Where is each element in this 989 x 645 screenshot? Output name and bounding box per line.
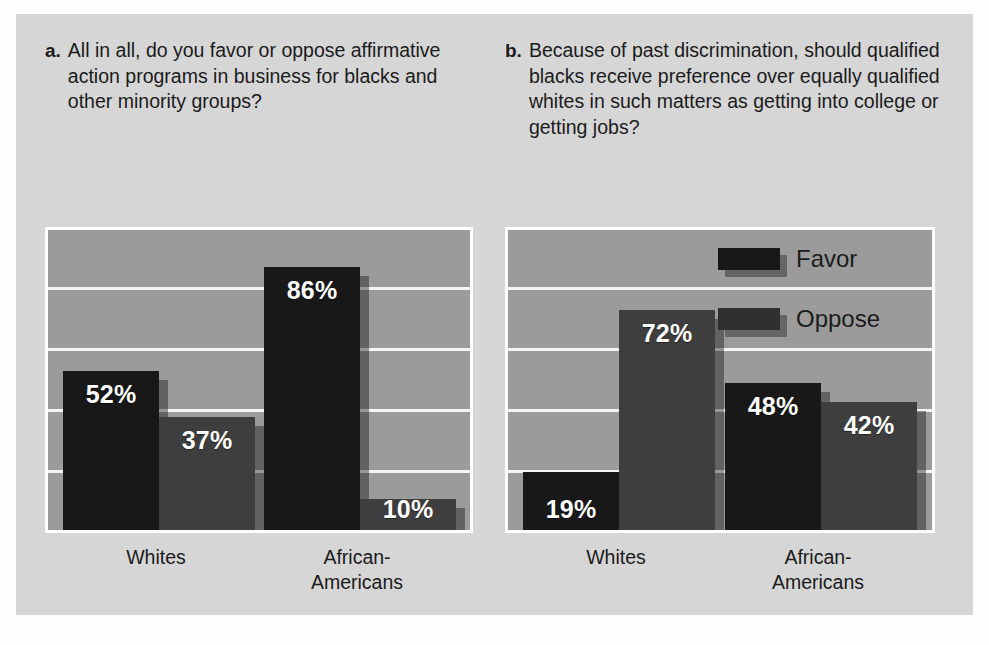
bar-value-label: 42% — [821, 411, 917, 440]
panel-a-question-text: All in all, do you favor or oppose affir… — [68, 38, 450, 115]
category-line: African- — [261, 545, 453, 570]
panel-b-letter: b. — [505, 38, 522, 64]
bar-whites-favor[interactable]: 19% — [523, 472, 619, 530]
bar-african-americans-favor[interactable]: 86% — [264, 267, 360, 530]
panel-a-bars: 52% 37% 86 — [48, 230, 470, 530]
bar-fill — [264, 267, 360, 530]
bar-african-americans-favor[interactable]: 48% — [725, 383, 821, 530]
legend-label-oppose: Oppose — [796, 307, 880, 331]
bar-whites-oppose[interactable]: 37% — [159, 417, 255, 530]
bar-value-label: 52% — [63, 380, 159, 409]
bar-african-americans-oppose[interactable]: 10% — [360, 499, 456, 530]
category-line: Whites — [60, 545, 252, 570]
bar-value-label: 48% — [725, 392, 821, 421]
bar-value-label: 86% — [264, 276, 360, 305]
category-label-whites: Whites — [520, 545, 712, 570]
legend-swatch-oppose-icon — [718, 308, 780, 330]
category-label-african-americans: African- Americans — [261, 545, 453, 595]
category-label-african-americans: African- Americans — [722, 545, 914, 595]
swatch-fill — [718, 248, 780, 270]
panel-b: b. Because of past discrimination, shoul… — [505, 14, 965, 615]
category-line: Americans — [722, 570, 914, 595]
panel-b-question-text: Because of past discrimination, should q… — [529, 38, 945, 140]
category-label-whites: Whites — [60, 545, 252, 570]
legend-swatch-favor-icon — [718, 248, 780, 270]
panel-a-letter: a. — [45, 38, 61, 64]
panel-b-plot-wrap: Favor Oppose — [505, 227, 935, 533]
panels-container: a. All in all, do you favor or oppose af… — [16, 14, 973, 615]
chart-legend: Favor Oppose — [718, 244, 928, 364]
bar-value-label: 19% — [523, 495, 619, 524]
bar-whites-favor[interactable]: 52% — [63, 371, 159, 530]
panel-b-question: b. Because of past discrimination, shoul… — [505, 38, 945, 140]
panel-a-category-labels: Whites African- Americans — [45, 539, 473, 609]
panel-a-plot-area: 52% 37% 86 — [45, 227, 473, 533]
legend-item-favor[interactable]: Favor — [718, 244, 928, 274]
panel-a-question: a. All in all, do you favor or oppose af… — [45, 38, 450, 115]
panel-a: a. All in all, do you favor or oppose af… — [45, 14, 495, 615]
bar-value-label: 10% — [360, 495, 456, 524]
bar-value-label: 37% — [159, 426, 255, 455]
category-line: African- — [722, 545, 914, 570]
legend-item-oppose[interactable]: Oppose — [718, 304, 928, 334]
figure-card: a. All in all, do you favor or oppose af… — [16, 14, 973, 615]
panel-b-category-labels: Whites African- Americans — [505, 539, 935, 609]
bar-value-label: 72% — [619, 319, 715, 348]
category-line: Americans — [261, 570, 453, 595]
figure-page: a. All in all, do you favor or oppose af… — [0, 0, 989, 645]
legend-label-favor: Favor — [796, 247, 857, 271]
bar-african-americans-oppose[interactable]: 42% — [821, 402, 917, 530]
swatch-fill — [718, 308, 780, 330]
category-line: Whites — [520, 545, 712, 570]
panel-b-plot-area: Favor Oppose — [505, 227, 935, 533]
bar-whites-oppose[interactable]: 72% — [619, 310, 715, 530]
panel-a-plot-wrap: 52% 37% 86 — [45, 227, 473, 533]
